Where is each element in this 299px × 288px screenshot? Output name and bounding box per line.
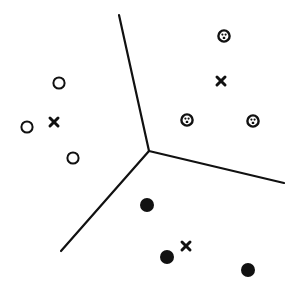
- filled-circle-point: [241, 263, 255, 277]
- boundary-line-3: [149, 151, 284, 183]
- filled-circle-point: [140, 198, 154, 212]
- open-circle-point: [53, 77, 64, 88]
- open-circle-point: [21, 121, 32, 132]
- filled-circle-cluster: [140, 198, 255, 277]
- centroid-x-marker: [50, 118, 58, 126]
- dotted-circle-cluster: [181, 30, 258, 126]
- voronoi-boundaries: [61, 15, 284, 251]
- dotted-circle-point: [218, 30, 229, 41]
- centroid-x-marker: [217, 77, 225, 85]
- centroid-x-marker: [182, 242, 190, 250]
- dotted-circle-point: [247, 115, 258, 126]
- voronoi-diagram: [0, 0, 299, 288]
- clusters: [21, 30, 258, 277]
- boundary-line-1: [119, 15, 149, 151]
- filled-circle-point: [160, 250, 174, 264]
- boundary-line-2: [61, 151, 149, 251]
- open-circle-point: [67, 152, 78, 163]
- open-circle-cluster: [21, 77, 78, 163]
- dotted-circle-point: [181, 114, 192, 125]
